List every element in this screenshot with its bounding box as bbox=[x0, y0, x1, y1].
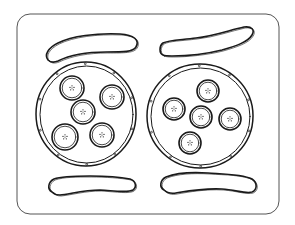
illustration-svg bbox=[0, 0, 295, 225]
breakfast-tray-illustration bbox=[0, 0, 295, 225]
